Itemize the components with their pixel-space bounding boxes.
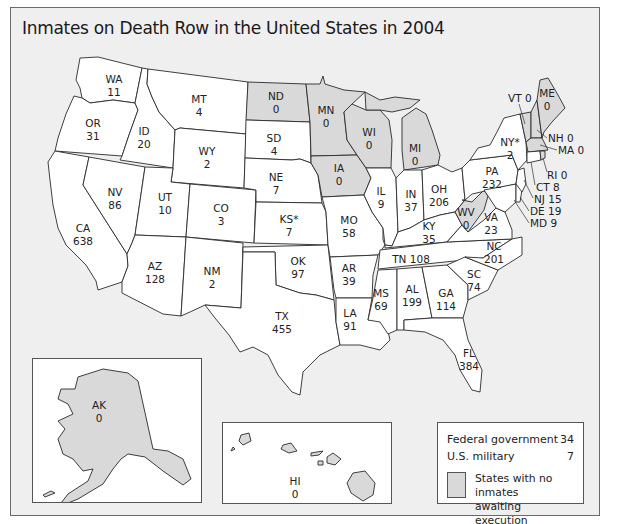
svg-text:TN 108: TN 108: [391, 253, 430, 265]
svg-text:86: 86: [108, 199, 122, 211]
svg-text:0: 0: [292, 488, 299, 500]
svg-text:232: 232: [482, 178, 502, 190]
svg-text:4: 4: [271, 145, 278, 157]
svg-text:DE 19: DE 19: [530, 205, 561, 217]
svg-text:RI 0: RI 0: [547, 169, 567, 181]
svg-text:NJ 15: NJ 15: [534, 193, 562, 205]
svg-text:UT: UT: [158, 191, 173, 203]
svg-text:WY: WY: [199, 145, 216, 157]
svg-text:ME: ME: [539, 87, 555, 99]
svg-text:201: 201: [484, 253, 504, 265]
svg-text:11: 11: [107, 86, 120, 98]
svg-text:WA: WA: [106, 73, 124, 85]
svg-text:9: 9: [378, 198, 385, 210]
svg-text:CT 8: CT 8: [536, 181, 560, 193]
svg-text:AK: AK: [92, 399, 107, 411]
svg-text:37: 37: [404, 201, 417, 213]
svg-text:ND: ND: [268, 90, 284, 102]
svg-text:IL: IL: [377, 185, 386, 197]
svg-text:0: 0: [463, 219, 470, 231]
svg-text:NC: NC: [486, 240, 501, 252]
svg-text:IA: IA: [334, 162, 345, 174]
state-ma[interactable]: [526, 138, 548, 152]
svg-text:10: 10: [158, 204, 171, 216]
svg-text:128: 128: [145, 273, 165, 285]
svg-text:NH 0: NH 0: [548, 132, 574, 144]
svg-text:NM: NM: [204, 265, 221, 277]
svg-text:MD 9: MD 9: [530, 217, 557, 229]
svg-text:KY: KY: [423, 220, 437, 232]
alaska-inset: AK 0: [32, 358, 202, 503]
no-inmates-swatch: [447, 472, 466, 498]
svg-text:7: 7: [273, 184, 280, 196]
state-nd[interactable]: [246, 82, 310, 122]
svg-text:91: 91: [343, 320, 356, 332]
state-mi[interactable]: [402, 108, 440, 170]
svg-text:FL: FL: [463, 347, 475, 359]
svg-text:23: 23: [484, 224, 497, 236]
svg-text:TX: TX: [274, 310, 289, 322]
legend-military: U.S. military 7: [447, 448, 574, 465]
svg-text:114: 114: [436, 300, 456, 312]
svg-text:0: 0: [544, 100, 551, 112]
svg-text:0: 0: [273, 103, 280, 115]
svg-text:WI: WI: [362, 126, 375, 138]
svg-text:MS: MS: [373, 287, 389, 299]
svg-text:MO: MO: [340, 214, 357, 226]
svg-text:CA: CA: [76, 222, 91, 234]
svg-text:384: 384: [459, 360, 479, 372]
state-ri[interactable]: [540, 151, 545, 160]
svg-text:VT 0: VT 0: [508, 92, 532, 104]
svg-text:SC: SC: [467, 268, 481, 280]
svg-text:3: 3: [218, 215, 225, 227]
svg-text:SD: SD: [267, 132, 282, 144]
svg-text:58: 58: [342, 227, 355, 239]
svg-text:AL: AL: [405, 283, 418, 295]
svg-text:HI: HI: [290, 475, 301, 487]
svg-text:PA: PA: [486, 165, 500, 177]
svg-text:MT: MT: [191, 93, 207, 105]
svg-text:7: 7: [286, 226, 293, 238]
svg-text:MI: MI: [409, 142, 421, 154]
svg-text:AR: AR: [342, 262, 356, 274]
svg-text:NY*: NY*: [500, 136, 520, 148]
svg-text:OK: OK: [290, 255, 306, 267]
svg-text:0: 0: [323, 117, 330, 129]
state-ct[interactable]: [527, 151, 541, 163]
svg-text:NV: NV: [107, 186, 123, 198]
svg-text:IN: IN: [406, 188, 417, 200]
svg-text:638: 638: [73, 235, 93, 247]
legend-federal: Federal government 34: [447, 431, 574, 448]
svg-text:2: 2: [204, 158, 211, 170]
svg-text:LA: LA: [343, 307, 357, 319]
svg-text:GA: GA: [438, 287, 454, 299]
svg-text:0: 0: [336, 175, 343, 187]
svg-text:97: 97: [291, 268, 304, 280]
state-mi-up[interactable]: [365, 92, 420, 112]
svg-text:74: 74: [467, 281, 481, 293]
svg-text:35: 35: [422, 233, 435, 245]
svg-text:WV: WV: [457, 206, 475, 218]
svg-text:69: 69: [374, 300, 387, 312]
svg-text:39: 39: [342, 275, 355, 287]
svg-text:AZ: AZ: [148, 260, 162, 272]
state-hi[interactable]: [347, 471, 375, 501]
svg-text:CO: CO: [213, 202, 229, 214]
svg-text:ID: ID: [138, 125, 149, 137]
svg-text:OH: OH: [431, 183, 447, 195]
svg-text:206: 206: [429, 196, 449, 208]
legend: Federal government 34 U.S. military 7 St…: [437, 422, 584, 504]
svg-text:VA: VA: [484, 211, 499, 223]
svg-text:MA 0: MA 0: [558, 144, 584, 156]
svg-text:OR: OR: [85, 117, 101, 129]
svg-text:MN: MN: [318, 104, 335, 116]
svg-text:2: 2: [209, 278, 216, 290]
svg-text:NE: NE: [269, 171, 284, 183]
svg-text:20: 20: [137, 138, 150, 150]
svg-text:0: 0: [412, 155, 419, 167]
svg-text:2: 2: [507, 149, 514, 161]
legend-key: States with no inmates awaiting executio…: [447, 472, 574, 524]
state-ak[interactable]: [58, 369, 191, 502]
svg-text:0: 0: [96, 412, 103, 424]
svg-text:0: 0: [366, 139, 373, 151]
